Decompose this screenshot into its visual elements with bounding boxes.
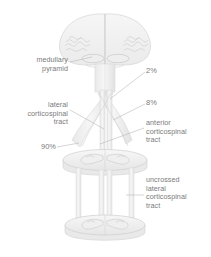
anatomy-figure: medullary pyramid lateral corticospinal …	[0, 0, 211, 257]
label-lateral-corticospinal-tract: lateral corticospinal tract	[4, 101, 68, 127]
label-percent-2: 2%	[146, 67, 168, 76]
pyramidal-decussation	[72, 64, 132, 152]
label-medullary-pyramid: medullary pyramid	[6, 56, 68, 73]
label-anterior-corticospinal-tract: anterior corticospinal tract	[146, 119, 208, 145]
medullary-pyramid-right	[107, 54, 129, 62]
spinal-cord-cross-section-upper	[63, 150, 147, 176]
label-percent-90: 90%	[30, 143, 56, 152]
label-uncrossed-lateral-corticospinal-tract: uncrossed lateral corticospinal tract	[146, 176, 208, 210]
descending-columns-lower	[76, 168, 134, 220]
label-percent-8: 8%	[146, 99, 168, 108]
medulla-oblongata	[59, 14, 150, 68]
spinal-cord-cross-section-lower	[65, 215, 145, 240]
leader-90	[57, 143, 79, 147]
